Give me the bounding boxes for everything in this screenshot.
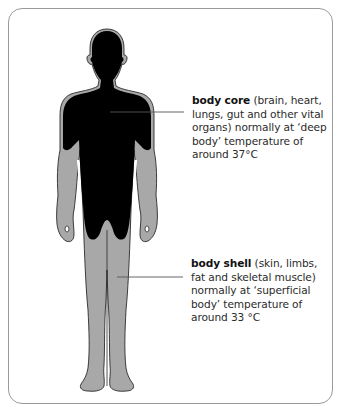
body-core-term: body core [192,94,250,106]
body-core-label: body core (brain, heart, lungs, gut and … [192,94,332,162]
body-shell-label: body shell (skin, limbs, fat and skeleta… [191,257,326,325]
body-core-region [63,31,151,240]
human-body-figure [0,0,338,410]
body-shell-term: body shell [191,257,251,269]
